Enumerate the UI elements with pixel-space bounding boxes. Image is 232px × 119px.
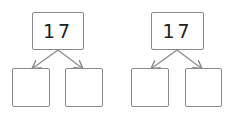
number-bond-2-whole: 17 — [151, 12, 204, 50]
number-bond-1-part-right[interactable] — [65, 68, 103, 107]
number-bond-1-part-left[interactable] — [12, 68, 50, 107]
number-bond-2-part-right[interactable] — [185, 68, 222, 107]
number-bond-1-whole: 17 — [32, 12, 84, 50]
number-bond-2-part-left[interactable] — [131, 68, 169, 107]
